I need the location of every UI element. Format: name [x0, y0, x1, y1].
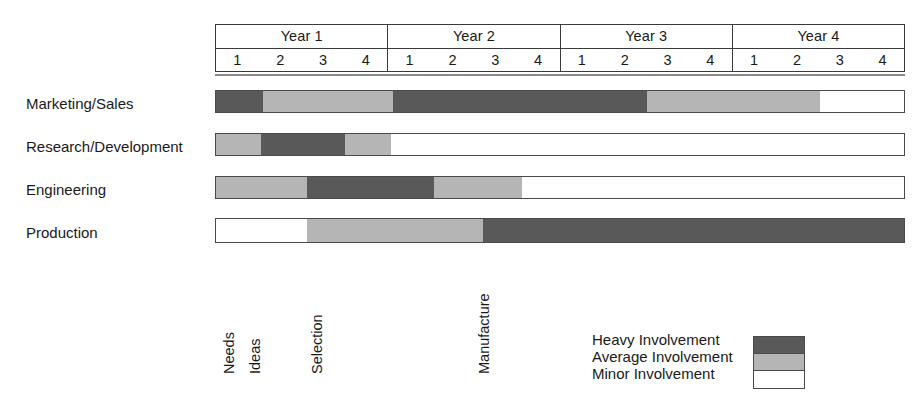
year-label-4: Year 4 — [797, 28, 839, 44]
quarter-cell-y3q2: 2 — [603, 49, 646, 72]
quarter-cell-y2q1: 1 — [388, 49, 431, 72]
bar-segment-heavy — [261, 134, 345, 155]
bar-segment-average — [263, 91, 392, 112]
year-label-1: Year 1 — [281, 28, 323, 44]
bar-segment-average — [307, 219, 484, 242]
quarter-row: 1 2 3 4 1 2 3 4 1 2 3 4 1 2 3 4 — [216, 49, 904, 72]
stage-label-needs: Needs — [221, 332, 237, 374]
row-label-marketing-sales: Marketing/Sales — [26, 95, 210, 112]
quarter-cell-y4q1: 1 — [733, 49, 776, 72]
quarter-group-year-2: 1 2 3 4 — [388, 49, 560, 72]
year-cell-2: Year 2 — [388, 25, 560, 48]
bar-segment-minor — [522, 177, 905, 198]
quarter-cell-y1q2: 2 — [259, 49, 302, 72]
stage-label-manufacture: Manufacture — [476, 293, 492, 374]
quarter-cell-y1q1: 1 — [216, 49, 259, 72]
quarter-cell-y3q3: 3 — [646, 49, 689, 72]
quarter-cell-y3q4: 4 — [689, 49, 732, 72]
year-row: Year 1 Year 2 Year 3 Year 4 — [216, 25, 904, 49]
legend-label-heavy: Heavy Involvement — [592, 331, 750, 348]
legend-label-minor: Minor Involvement — [592, 365, 750, 382]
legend-label-list: Heavy Involvement Average Involvement Mi… — [592, 331, 750, 382]
bar-segment-minor — [391, 134, 905, 155]
bar-segment-heavy — [216, 91, 263, 112]
bar-segment-average — [345, 134, 390, 155]
year-cell-4: Year 4 — [733, 25, 904, 48]
timeline-header: Year 1 Year 2 Year 3 Year 4 1 2 3 4 1 2 — [215, 24, 905, 72]
quarter-cell-y2q3: 3 — [474, 49, 517, 72]
bar-segment-average — [216, 134, 261, 155]
bar-track-research-development — [215, 133, 905, 156]
bar-track-marketing-sales — [215, 90, 905, 113]
quarter-group-year-3: 1 2 3 4 — [561, 49, 733, 72]
quarter-cell-y2q4: 4 — [517, 49, 560, 72]
quarter-cell-y4q4: 4 — [861, 49, 904, 72]
involvement-gantt-chart: Year 1 Year 2 Year 3 Year 4 1 2 3 4 1 2 — [0, 0, 922, 417]
row-label-engineering-fix: Engineering — [26, 181, 210, 198]
row-label-research-development: Research/Development — [26, 138, 210, 155]
bar-segment-heavy — [483, 219, 905, 242]
header-underline — [215, 74, 905, 76]
row-label-production: Production — [26, 224, 210, 241]
year-label-3: Year 3 — [625, 28, 667, 44]
quarter-group-year-4: 1 2 3 4 — [733, 49, 904, 72]
quarter-cell-y1q4: 4 — [344, 49, 387, 72]
bar-segment-heavy — [307, 177, 434, 198]
bar-segment-minor — [820, 91, 905, 112]
stage-label-ideas: Ideas — [247, 339, 263, 374]
quarter-cell-y2q2: 2 — [431, 49, 474, 72]
bar-segment-minor — [216, 219, 307, 242]
quarter-cell-y4q3: 3 — [818, 49, 861, 72]
bar-segment-heavy — [393, 91, 647, 112]
legend-swatch-heavy — [754, 337, 804, 354]
year-label-2: Year 2 — [453, 28, 495, 44]
legend-swatch-minor — [754, 371, 804, 388]
bar-segment-average — [647, 91, 820, 112]
bar-track-engineering — [215, 176, 905, 199]
bar-segment-average — [216, 177, 307, 198]
bar-segment-average — [434, 177, 522, 198]
quarter-group-year-1: 1 2 3 4 — [216, 49, 388, 72]
quarter-cell-y3q1: 1 — [561, 49, 604, 72]
legend-swatch-list — [753, 336, 805, 389]
quarter-cell-y1q3: 3 — [302, 49, 345, 72]
year-cell-3: Year 3 — [561, 25, 733, 48]
stage-label-selection: Selection — [309, 314, 325, 374]
bar-track-production — [215, 218, 905, 243]
quarter-cell-y4q2: 2 — [776, 49, 819, 72]
legend-label-average: Average Involvement — [592, 348, 750, 365]
legend-swatch-average — [754, 354, 804, 371]
year-cell-1: Year 1 — [216, 25, 388, 48]
legend: Heavy Involvement Average Involvement Mi… — [592, 331, 750, 382]
